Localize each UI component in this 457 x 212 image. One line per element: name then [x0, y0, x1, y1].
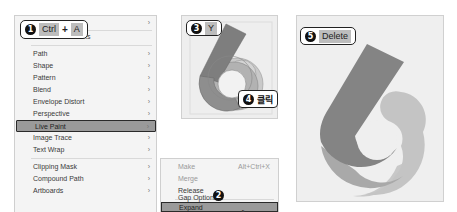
menu-separator: [31, 158, 152, 159]
menu-item-live-paint[interactable]: Live Paint ›: [16, 120, 156, 132]
menu-item-blend[interactable]: Blend ›: [15, 84, 156, 96]
chevron-right-icon: ›: [148, 84, 150, 96]
chevron-right-icon: ›: [148, 72, 150, 84]
chevron-right-icon: ›: [148, 144, 150, 156]
callout-step-1: 1 Ctrl + A: [20, 20, 88, 39]
chevron-right-icon: ›: [148, 17, 150, 29]
chevron-right-icon: ›: [148, 185, 150, 197]
menu-item-path[interactable]: Path ›: [15, 48, 156, 60]
chevron-right-icon: ›: [148, 108, 150, 120]
menu-item-envelope-distort[interactable]: Envelope Distort ›: [15, 96, 156, 108]
chevron-right-icon: ›: [148, 96, 150, 108]
callout-step-5: 5 Delete: [300, 27, 356, 45]
step-number-badge: 3: [191, 23, 202, 34]
menu-item-pattern[interactable]: Pattern ›: [15, 72, 156, 84]
keycap-ctrl: Ctrl: [39, 23, 59, 36]
menu-item-clipping-mask[interactable]: Clipping Mask ›: [15, 161, 156, 173]
chevron-right-icon: ›: [148, 60, 150, 72]
click-label: 클릭: [257, 93, 273, 106]
keycap-a: A: [71, 23, 83, 36]
callout-step-3: 3 Y: [186, 20, 222, 36]
menu-item-perspective[interactable]: Perspective ›: [15, 108, 156, 120]
chevron-right-icon: ›: [148, 173, 150, 185]
step-number-badge: 4: [243, 94, 254, 105]
keycap-delete: Delete: [319, 30, 351, 43]
menu-item-artboards[interactable]: Artboards ›: [15, 185, 156, 197]
mouse-cursor-icon: ↖: [241, 207, 247, 212]
step-number-badge: 5: [305, 31, 316, 42]
object-menu: › Create Trim Marks Path › Shape › Patte…: [14, 15, 157, 212]
submenu-item-expand[interactable]: Expand ↖: [161, 202, 278, 212]
menu-item-text-wrap[interactable]: Text Wrap ›: [15, 144, 156, 156]
menu-item-shape[interactable]: Shape ›: [15, 60, 156, 72]
menu-item-image-trace[interactable]: Image Trace ›: [15, 132, 156, 144]
chevron-right-icon: ›: [148, 132, 150, 144]
step-number-badge-2: 2: [213, 190, 224, 201]
callout-step-4: 4 클릭: [238, 90, 278, 108]
chevron-right-icon: ›: [148, 48, 150, 60]
menu-separator: [31, 45, 152, 46]
chevron-right-icon: ›: [148, 161, 150, 173]
menu-item-compound-path[interactable]: Compound Path ›: [15, 173, 156, 185]
step-number-badge: 1: [25, 24, 36, 35]
submenu-item-make[interactable]: Make Alt+Ctrl+X: [161, 161, 278, 173]
submenu-item-merge[interactable]: Merge: [161, 173, 278, 185]
keycap-y: Y: [205, 22, 217, 35]
shortcut-label: Alt+Ctrl+X: [238, 161, 270, 173]
